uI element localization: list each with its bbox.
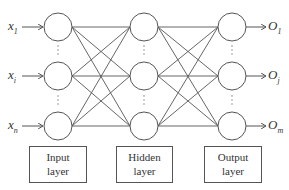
output-label-om: Om: [268, 118, 283, 135]
input-label-xi: xi: [8, 68, 16, 85]
input-label-xn: xn: [8, 118, 18, 135]
input-layer-box: Input layer: [29, 146, 87, 183]
output-node-j: [218, 62, 246, 90]
hidden-layer-label-line1: Hidden: [117, 150, 172, 164]
hidden-node-k: [130, 112, 158, 140]
output-layer-label-line2: layer: [205, 164, 261, 178]
hidden-layer-label-line2: layer: [117, 164, 172, 178]
output-node-m: [218, 112, 246, 140]
output-layer-box: Output layer: [204, 146, 262, 183]
output-node-1: [218, 13, 246, 41]
output-label-o1: O1: [268, 19, 281, 36]
input-layer-label-line2: layer: [30, 164, 86, 178]
input-node-n: [44, 112, 72, 140]
output-label-oj: Oj: [268, 68, 280, 85]
input-layer-label-line1: Input: [30, 150, 86, 164]
hidden-layer-box: Hidden layer: [116, 146, 173, 183]
hidden-node-1: [130, 13, 158, 41]
output-layer-label-line1: Output: [205, 150, 261, 164]
input-label-x1: x1: [8, 19, 18, 36]
input-node-i: [44, 62, 72, 90]
input-node-1: [44, 13, 72, 41]
hidden-node-j: [130, 62, 158, 90]
nodes: [44, 13, 246, 140]
